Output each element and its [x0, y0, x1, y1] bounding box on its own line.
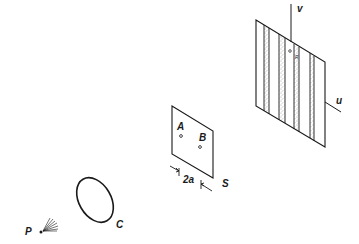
fringe-dark-1	[264, 25, 269, 114]
aperture-screen: A B 2a S	[170, 106, 229, 191]
source-label: P	[25, 226, 32, 237]
aperture-screen-label: S	[222, 178, 229, 189]
pinhole-a-label: A	[176, 121, 184, 132]
interference-diagram: v u R A B 2a S C P	[0, 0, 359, 244]
point-source: P	[25, 218, 58, 237]
source-dot	[40, 231, 43, 234]
fringe-dark-4	[310, 53, 314, 141]
light-rays-icon	[43, 218, 58, 231]
pinhole-b-label: B	[199, 132, 206, 143]
v-axis-label: v	[297, 3, 304, 14]
point-q-marker	[289, 50, 292, 53]
aperture-plate	[172, 106, 213, 178]
observation-screen: v u R	[256, 3, 342, 147]
separation-label: 2a	[182, 174, 195, 185]
lens-label: C	[116, 219, 124, 230]
lens: C	[69, 171, 124, 230]
fringe-dark-2	[279, 34, 285, 123]
lens-ellipse	[69, 171, 121, 229]
u-axis-label: u	[336, 95, 342, 106]
